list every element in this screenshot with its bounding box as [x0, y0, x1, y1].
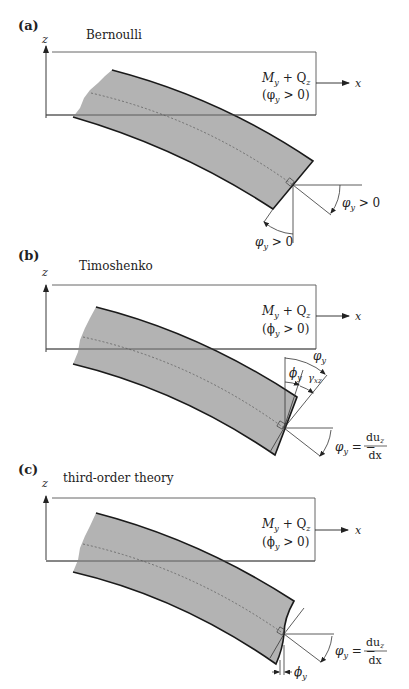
panel-b: (b) Timoshenko z x My + Qz (ϕy > 0) φy — [18, 248, 387, 462]
angle-arc-phi-bending — [285, 382, 299, 385]
angle-label-right: φy > 0 — [342, 196, 380, 212]
angle-label-phi-total: φy — [313, 349, 326, 365]
angle-label-bottom: φy > 0 — [255, 235, 293, 251]
beam-body — [73, 513, 294, 664]
angle-label-bottom: ϕy — [294, 665, 307, 681]
normal-line — [293, 185, 331, 215]
x-axis-label: x — [355, 310, 362, 323]
panel-a-title: Bernoulli — [86, 28, 142, 42]
angle-arc-right — [331, 185, 340, 213]
panel-b-title: Timoshenko — [79, 259, 153, 273]
beam-deformation-figure: (a) Bernoulli z x My + Qz (φy > 0) — [0, 0, 409, 689]
angle-arc-bottom — [264, 222, 293, 234]
angle-arc-right — [321, 636, 332, 662]
z-axis-label: z — [41, 477, 48, 490]
angle-label-gamma: γxz — [308, 372, 322, 385]
condition-label: (φy > 0) — [262, 88, 310, 104]
panel-a-label: (a) — [18, 18, 39, 33]
panel-a: (a) Bernoulli z x My + Qz (φy > 0) — [18, 18, 380, 251]
derivative-denominator: dx — [368, 654, 382, 667]
z-axis-label: z — [41, 33, 48, 46]
derivative-denominator: dx — [368, 449, 382, 462]
panel-b-label: (b) — [18, 248, 39, 263]
beam-body — [73, 70, 313, 209]
x-axis-label: x — [355, 77, 362, 90]
condition-label: (ϕy > 0) — [262, 535, 309, 551]
load-label: My + Qz — [261, 304, 311, 320]
load-label: My + Qz — [261, 517, 311, 533]
angle-label-phi-bending: ϕy — [289, 366, 302, 382]
derivative-numerator: duz — [366, 636, 384, 650]
angle-arc-gamma — [300, 386, 313, 393]
load-label: My + Qz — [261, 71, 311, 87]
tangent-normal-line — [284, 428, 320, 456]
z-axis-label: z — [41, 266, 48, 279]
normal-line — [284, 634, 321, 662]
cross-section-extension — [264, 209, 273, 222]
x-axis-label: x — [355, 524, 362, 537]
condition-label: (ϕy > 0) — [262, 322, 309, 338]
derivative-numerator: duz — [366, 431, 384, 445]
panel-c: (c) third-order theory z x My + Qz (ϕy >… — [18, 462, 387, 681]
angle-arc-right — [320, 430, 331, 456]
panel-c-label: (c) — [18, 462, 38, 477]
panel-c-title: third-order theory — [63, 471, 174, 485]
